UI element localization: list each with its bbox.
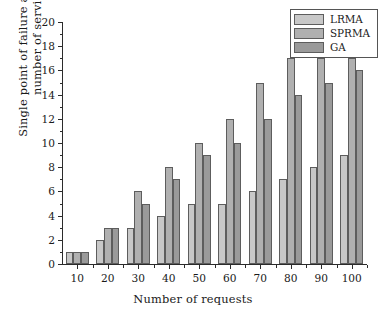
- x-tick: [199, 265, 200, 269]
- x-minor-tick: [306, 265, 307, 268]
- bar-lrma-60: [218, 204, 226, 265]
- legend: LRMASPRMAGA: [290, 9, 378, 58]
- x-minor-tick: [276, 265, 277, 268]
- y-minor-tick: [60, 179, 62, 180]
- bar-lrma-30: [127, 228, 135, 264]
- bar-ga-80: [295, 95, 303, 264]
- y-minor-tick: [60, 83, 62, 84]
- bar-lrma-10: [66, 252, 74, 264]
- bar-sprma-100: [348, 58, 356, 264]
- x-tick-label: 80: [284, 272, 297, 284]
- bar-sprma-20: [104, 228, 112, 264]
- bar-lrma-50: [188, 204, 196, 265]
- y-tick-label: 20: [42, 16, 55, 28]
- y-minor-tick: [60, 107, 62, 108]
- plot-area: 02468101214161820 102030405060708090100: [62, 22, 367, 265]
- x-minor-tick: [367, 265, 368, 268]
- y-tick: [58, 22, 62, 23]
- legend-item-sprma[interactable]: SPRMA: [294, 26, 374, 40]
- x-tick-label: 30: [132, 272, 145, 284]
- bar-sprma-90: [317, 58, 325, 264]
- bar-lrma-70: [249, 191, 257, 264]
- x-tick: [291, 265, 292, 269]
- x-minor-tick: [215, 265, 216, 268]
- y-axis-title-line-1: Single point of failure affects the: [16, 0, 30, 137]
- y-tick-label: 10: [42, 137, 55, 149]
- x-tick: [230, 265, 231, 269]
- bar-sprma-60: [226, 119, 234, 264]
- bar-lrma-40: [157, 216, 165, 264]
- bar-ga-30: [142, 204, 150, 265]
- x-tick-label: 60: [223, 272, 236, 284]
- bar-ga-100: [356, 70, 364, 264]
- x-tick: [352, 265, 353, 269]
- y-tick: [58, 70, 62, 71]
- x-minor-tick: [154, 265, 155, 268]
- y-tick-label: 14: [42, 89, 55, 101]
- legend-label-sprma: SPRMA: [330, 28, 370, 39]
- bar-ga-20: [112, 228, 120, 264]
- bar-ga-60: [234, 143, 242, 264]
- y-tick: [58, 264, 62, 265]
- y-tick: [58, 119, 62, 120]
- x-tick: [260, 265, 261, 269]
- y-tick: [58, 167, 62, 168]
- y-tick-label: 12: [42, 113, 55, 125]
- y-minor-tick: [60, 131, 62, 132]
- x-tick: [108, 265, 109, 269]
- x-tick-label: 20: [101, 272, 114, 284]
- x-minor-tick: [245, 265, 246, 268]
- y-tick: [58, 143, 62, 144]
- bar-sprma-70: [256, 83, 264, 265]
- bar-lrma-90: [310, 167, 318, 264]
- y-tick-label: 8: [48, 161, 55, 173]
- y-tick: [58, 95, 62, 96]
- y-tick: [58, 46, 62, 47]
- legend-swatch-lrma: [294, 14, 324, 25]
- y-tick: [58, 191, 62, 192]
- x-tick: [138, 265, 139, 269]
- y-minor-tick: [60, 155, 62, 156]
- y-tick-label: 16: [42, 64, 55, 76]
- x-tick-label: 70: [254, 272, 267, 284]
- bar-ga-50: [203, 155, 211, 264]
- legend-item-lrma[interactable]: LRMA: [294, 12, 374, 26]
- legend-label-lrma: LRMA: [330, 14, 363, 25]
- bar-sprma-30: [134, 191, 142, 264]
- bar-sprma-40: [165, 167, 173, 264]
- x-tick-label: 10: [71, 272, 84, 284]
- y-tick-label: 6: [48, 185, 55, 197]
- bar-lrma-20: [96, 240, 104, 264]
- y-minor-tick: [60, 204, 62, 205]
- bar-sprma-10: [73, 252, 81, 264]
- y-minor-tick: [60, 58, 62, 59]
- legend-label-ga: GA: [330, 42, 346, 53]
- x-minor-tick: [184, 265, 185, 268]
- legend-swatch-ga: [294, 42, 324, 53]
- y-minor-tick: [60, 228, 62, 229]
- y-minor-tick: [60, 34, 62, 35]
- x-tick-label: 40: [162, 272, 175, 284]
- x-tick: [77, 265, 78, 269]
- x-tick-label: 50: [193, 272, 206, 284]
- bar-lrma-80: [279, 179, 287, 264]
- y-tick-label: 4: [48, 210, 55, 222]
- x-minor-tick: [123, 265, 124, 268]
- y-tick: [58, 240, 62, 241]
- y-tick-label: 18: [42, 40, 55, 52]
- bar-sprma-50: [195, 143, 203, 264]
- chart-figure: Single point of failure affects the numb…: [0, 0, 386, 319]
- y-tick-label: 0: [48, 258, 55, 270]
- x-minor-tick: [337, 265, 338, 268]
- bar-ga-70: [264, 119, 272, 264]
- bar-ga-10: [81, 252, 89, 264]
- y-axis-line: [62, 22, 63, 265]
- x-tick: [321, 265, 322, 269]
- bar-lrma-100: [340, 155, 348, 264]
- y-tick: [58, 216, 62, 217]
- y-tick-label: 2: [48, 234, 55, 246]
- x-tick-label: 90: [315, 272, 328, 284]
- legend-item-ga[interactable]: GA: [294, 40, 374, 54]
- x-minor-tick: [93, 265, 94, 268]
- bar-ga-40: [173, 179, 181, 264]
